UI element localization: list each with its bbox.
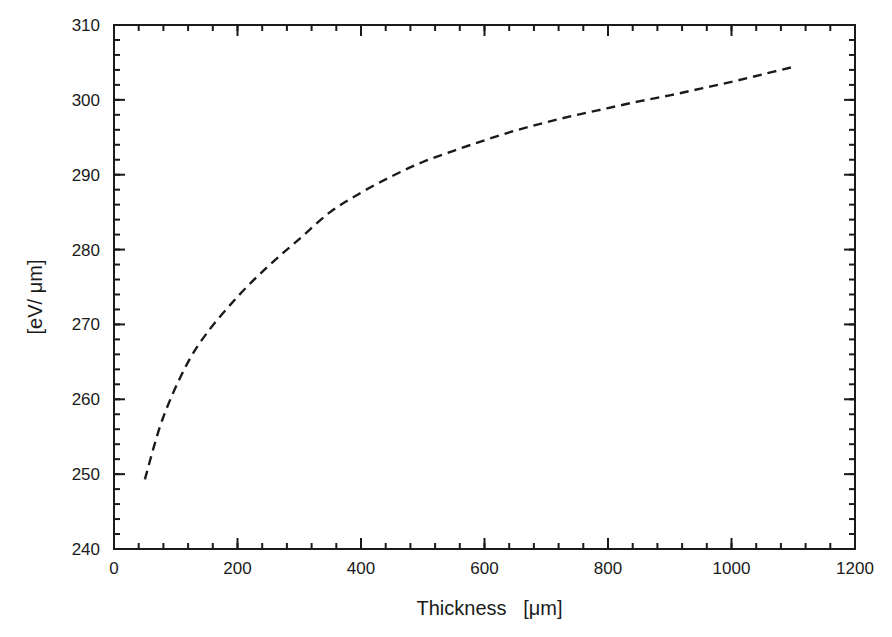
plot-area-frame <box>114 25 855 549</box>
x-axis-title: Thickness [μm] <box>417 597 563 619</box>
data-series-line <box>145 67 793 479</box>
x-tick-label: 1000 <box>713 559 751 578</box>
x-tick-label: 600 <box>470 559 498 578</box>
y-tick-label: 250 <box>72 465 100 484</box>
y-axis-tick-labels: 240250260270280290300310 <box>72 16 100 559</box>
x-tick-label: 800 <box>594 559 622 578</box>
y-tick-label: 240 <box>72 540 100 559</box>
y-axis-title: [eV/ μm] <box>24 260 46 335</box>
y-tick-label: 260 <box>72 390 100 409</box>
y-tick-label: 310 <box>72 16 100 35</box>
y-tick-label: 270 <box>72 315 100 334</box>
y-tick-label: 290 <box>72 166 100 185</box>
x-axis-tick-labels: 020040060080010001200 <box>109 559 874 578</box>
x-tick-label: 0 <box>109 559 118 578</box>
major-ticks <box>114 25 855 549</box>
chart-canvas: 020040060080010001200 240250260270280290… <box>0 0 892 637</box>
x-tick-label: 400 <box>347 559 375 578</box>
x-tick-label: 1200 <box>836 559 874 578</box>
minor-ticks <box>114 25 855 549</box>
y-tick-label: 280 <box>72 241 100 260</box>
x-tick-label: 200 <box>223 559 251 578</box>
y-tick-label: 300 <box>72 91 100 110</box>
